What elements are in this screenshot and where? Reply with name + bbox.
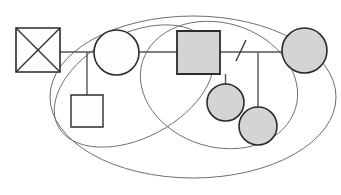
male-node-shaded[interactable] (177, 31, 220, 74)
genogram-canvas (0, 0, 341, 195)
genogram-svg (0, 0, 341, 195)
separation-slash (236, 40, 246, 61)
deceased-male-node[interactable] (16, 28, 60, 72)
female-child-node-shaded-lower[interactable] (239, 107, 277, 145)
female-child-node-shaded-upper[interactable] (207, 84, 244, 121)
female-node-shaded-right[interactable] (282, 28, 327, 73)
node-layer (16, 28, 327, 145)
male-child-node-unshaded[interactable] (71, 95, 103, 127)
female-node-unshaded[interactable] (94, 30, 139, 75)
boundary-layer (34, 0, 336, 178)
subsystem-boundary-left (34, 0, 235, 172)
